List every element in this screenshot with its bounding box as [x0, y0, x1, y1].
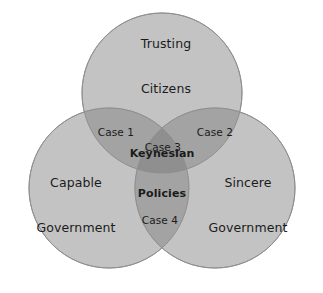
venn-diagram: Trusting Citizens Capable Government Sin…: [0, 0, 323, 293]
venn-circles-graphic: [0, 0, 323, 293]
